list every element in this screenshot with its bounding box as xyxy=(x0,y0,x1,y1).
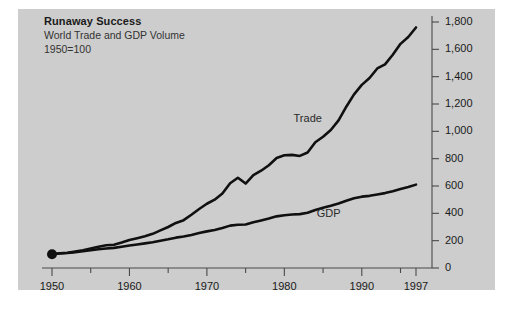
series-line-gdp xyxy=(52,185,416,255)
x-tick-label: 1960 xyxy=(99,280,159,292)
series-start-dot xyxy=(47,249,57,259)
y-tick-label: 800 xyxy=(445,152,463,164)
y-tick-label: 1,200 xyxy=(445,97,473,109)
y-tick-label: 400 xyxy=(445,206,463,218)
y-tick-label: 1,400 xyxy=(445,70,473,82)
x-tick-label: 1997 xyxy=(386,280,446,292)
series-group xyxy=(47,27,416,259)
y-tick-label: 600 xyxy=(445,179,463,191)
x-tick-label: 1950 xyxy=(22,280,82,292)
y-tick-label: 0 xyxy=(445,261,451,273)
plot-area xyxy=(0,0,511,312)
axes-group xyxy=(42,16,439,276)
y-tick-label: 1,800 xyxy=(445,15,473,27)
x-tick-label: 1980 xyxy=(254,280,314,292)
y-tick-label: 200 xyxy=(445,234,463,246)
x-tick-label: 1990 xyxy=(332,280,392,292)
y-tick-label: 1,600 xyxy=(445,42,473,54)
x-tick-label: 1970 xyxy=(177,280,237,292)
series-annotation-trade: Trade xyxy=(294,112,322,124)
y-tick-label: 1,000 xyxy=(445,124,473,136)
series-line-trade xyxy=(52,27,416,254)
chart-figure: Runaway Success World Trade and GDP Volu… xyxy=(0,0,511,312)
series-annotation-gdp: GDP xyxy=(317,207,341,219)
